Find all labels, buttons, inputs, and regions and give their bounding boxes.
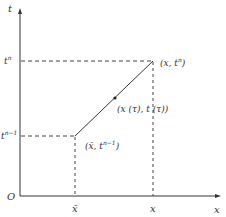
- start-point-label: (x̄, tn−1): [85, 139, 120, 151]
- mid-point: [113, 96, 116, 99]
- tick-xbar: x̄: [72, 203, 78, 214]
- x-axis-arrow-icon: [215, 194, 221, 198]
- end-point-label: (x, tn): [160, 56, 186, 68]
- y-axis-arrow-icon: [18, 8, 22, 14]
- origin-label: O: [7, 191, 15, 202]
- tick-tn: tn: [4, 54, 12, 66]
- mid-point-label: (x (τ), t (τ)): [117, 104, 169, 114]
- characteristic-diagram: t x O tn tn−1 x̄ x (x, tn) (x (τ), t (τ)…: [0, 0, 226, 217]
- x-axis-label: x: [214, 204, 220, 215]
- tick-x: x: [150, 203, 156, 214]
- tick-tn1: tn−1: [1, 129, 17, 141]
- y-axis-label: t: [8, 3, 13, 14]
